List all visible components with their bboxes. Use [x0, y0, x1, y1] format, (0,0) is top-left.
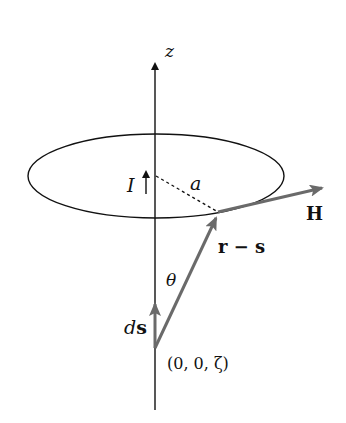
current-label: I: [126, 174, 135, 196]
element-label: ds: [124, 316, 147, 338]
displacement-vector: [155, 218, 216, 348]
radius-line: [156, 176, 218, 212]
element-label-s: s: [136, 316, 147, 338]
field-label: H: [306, 203, 323, 224]
angle-label: θ: [166, 270, 176, 290]
element-label-d: d: [124, 316, 136, 338]
radius-label: a: [190, 172, 201, 194]
z-axis-label: z: [164, 41, 175, 61]
displacement-label: r − s: [218, 236, 265, 257]
origin-point-label: (0, 0, ζ): [167, 354, 229, 373]
magnetic-loop-diagram: z I a H r − s θ ds (0, 0, ζ): [0, 0, 346, 423]
